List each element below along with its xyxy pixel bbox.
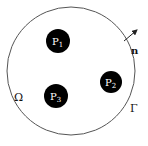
- normal-label: n: [131, 45, 139, 56]
- particle-p2: P2: [100, 71, 122, 93]
- domain-boundary-circle: [7, 7, 135, 135]
- domain-omega-label: Ω: [14, 91, 23, 104]
- domain-diagram: n Ω Γ P1 P2 P3: [0, 0, 148, 146]
- particle-p3: P3: [44, 84, 68, 108]
- particle-p1: P1: [46, 29, 70, 53]
- boundary-gamma-label: Γ: [130, 102, 138, 115]
- normal-arrow-icon: [124, 30, 137, 41]
